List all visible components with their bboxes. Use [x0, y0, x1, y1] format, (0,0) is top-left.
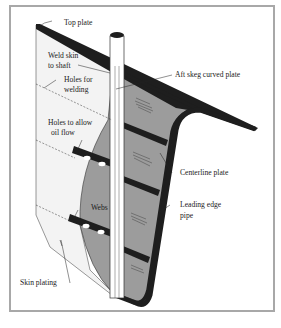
- oil-hole: [84, 156, 91, 160]
- oil-hole: [99, 162, 106, 166]
- label-aft-skeg: Aft skeg curved plate: [175, 70, 240, 80]
- label-leading-edge-1: Leading edge: [180, 200, 221, 210]
- label-weld-skin-2: to shaft: [48, 61, 71, 71]
- label-holes-oil-2: oil flow: [51, 128, 75, 138]
- label-holes-welding-1: Holes for: [64, 75, 92, 85]
- oil-hole: [98, 230, 105, 234]
- label-centerline-plate: Centerline plate: [180, 168, 228, 178]
- shaft-top: [110, 32, 124, 38]
- label-leading-edge-2: pipe: [180, 211, 193, 221]
- label-holes-welding-2: welding: [64, 85, 88, 95]
- figure-caption-cutoff: [8, 322, 276, 328]
- label-top-plate: Top plate: [64, 18, 92, 28]
- label-holes-oil-1: Holes to allow: [48, 118, 92, 128]
- rudder-shaft: [110, 36, 124, 298]
- label-webs: Webs: [91, 203, 108, 213]
- oil-hole: [83, 224, 90, 228]
- label-weld-skin-1: Weld skin: [48, 51, 78, 61]
- label-skin-plating: Skin plating: [20, 278, 57, 288]
